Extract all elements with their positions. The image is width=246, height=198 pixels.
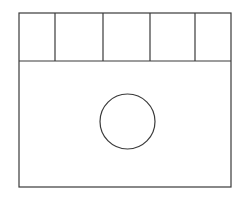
body-panel bbox=[100, 94, 155, 149]
circle-shape bbox=[100, 94, 155, 149]
header-row bbox=[19, 13, 231, 61]
wireframe-diagram bbox=[0, 0, 246, 198]
outer-frame bbox=[19, 13, 231, 187]
